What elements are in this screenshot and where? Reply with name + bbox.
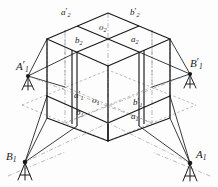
tripod-station-A1-prime[interactable]	[22, 74, 34, 90]
station-label-A1-prime: A′1	[16, 60, 29, 73]
node-label-o1: o1	[92, 95, 100, 106]
node-label-a1-prime: a′1	[74, 90, 83, 101]
node-label-a2-prime: a′2	[61, 7, 70, 18]
node-label-b2-prime: b′2	[130, 7, 139, 18]
node-label-o2: o2	[99, 22, 107, 33]
isometric-diagram-svg	[0, 0, 218, 187]
node-label-b1-prime: b′1	[133, 97, 142, 108]
tripod-station-B1[interactable]	[18, 160, 32, 180]
station-label-B1-prime: B′1	[190, 57, 203, 70]
station-label-B1: B1	[6, 150, 16, 163]
station-label-A1: A1	[196, 148, 206, 161]
figure-container: A′1 B′1 B1 A1 a′2 b′2 o2 b2 a2 a′1 o1 b′…	[0, 0, 218, 187]
tripod-station-A1[interactable]	[183, 161, 197, 181]
node-label-a1: a1	[131, 111, 139, 122]
node-label-b2: b2	[75, 35, 83, 46]
sight-lines-dashdot	[8, 74, 210, 176]
node-label-a2: a2	[131, 34, 139, 45]
node-label-b1: b1	[76, 107, 84, 118]
tripod-station-B1-prime[interactable]	[184, 72, 196, 88]
